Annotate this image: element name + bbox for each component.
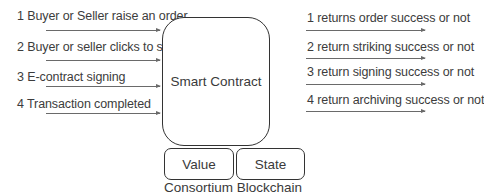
output-label-3: 3 return signing success or not: [307, 65, 474, 79]
value-box: Value: [164, 148, 234, 180]
smart-contract-label: Smart Contract: [163, 74, 269, 89]
output-arrow-1: [306, 30, 425, 31]
input-label-4: 4 Transaction completed: [17, 97, 151, 111]
output-label-2: 2 return striking success or not: [307, 40, 474, 54]
output-arrow-2: [306, 58, 425, 59]
smart-contract-box: Smart Contract: [162, 17, 270, 146]
output-arrow-4: [306, 111, 425, 112]
input-arrow-4: [46, 113, 160, 114]
output-label-1: 1 returns order success or not: [307, 11, 470, 25]
input-arrow-2: [46, 60, 160, 61]
input-arrow-3: [46, 86, 160, 87]
consortium-blockchain-label: Consortium Blockchain: [164, 180, 302, 195]
state-label: State: [255, 157, 287, 172]
input-label-2: 2 Buyer or seller clicks to strike: [17, 40, 186, 54]
input-arrow-1: [46, 30, 160, 31]
output-label-4: 4 return archiving success or not: [307, 93, 484, 107]
state-box: State: [236, 148, 305, 180]
input-label-3: 3 E-contract signing: [17, 70, 125, 84]
input-label-1: 1 Buyer or Seller raise an order: [17, 9, 188, 23]
output-arrow-3: [306, 84, 425, 85]
value-label: Value: [182, 157, 216, 172]
